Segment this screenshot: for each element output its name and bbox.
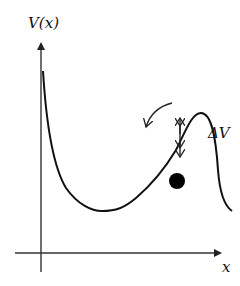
motion-arrow [146,103,172,127]
barrier-label: ΔV [208,124,230,142]
y-axis-label: V(x) [28,14,59,32]
ball [169,173,185,189]
potential-diagram [0,0,240,286]
x-axis-label: x [222,258,230,276]
potential-curve [43,71,232,211]
